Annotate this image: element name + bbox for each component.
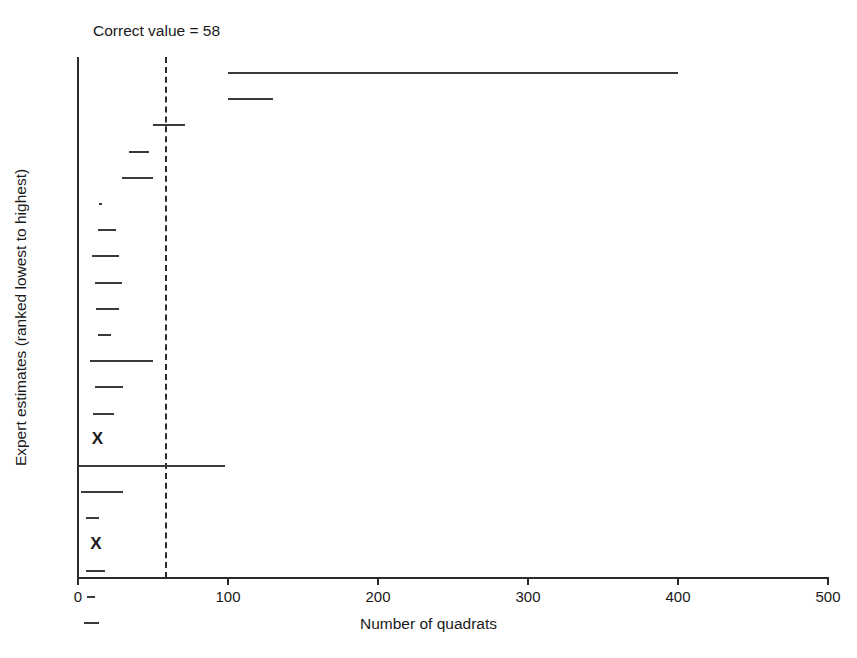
expert-estimates-chart: Correct value = 58 XX 0100200300400500 N… [0, 0, 857, 658]
x-tick-200 [377, 578, 379, 585]
estimate-range-bar [95, 386, 124, 388]
x-axis-line [77, 577, 829, 579]
estimate-range-bar [129, 151, 149, 153]
estimate-range-bar [96, 308, 119, 310]
estimate-range-bar [93, 413, 114, 415]
estimate-range-bar [90, 360, 153, 362]
estimate-point-marker: X [92, 429, 103, 446]
x-tick-100 [227, 578, 229, 585]
x-tick-400 [677, 578, 679, 585]
estimate-range-bar [92, 255, 119, 257]
estimate-range-bar [122, 177, 154, 179]
y-axis-title: Expert estimates (ranked lowest to highe… [10, 57, 32, 578]
y-axis-title-text: Expert estimates (ranked lowest to highe… [12, 169, 30, 466]
estimate-range-bar [95, 282, 122, 284]
x-tick-0 [77, 578, 79, 585]
x-tick-500 [827, 578, 829, 585]
reference-line-label: Correct value = 58 [93, 22, 220, 40]
x-tick-label-100: 100 [215, 588, 240, 606]
y-axis-line [77, 57, 79, 578]
estimate-range-bar [98, 229, 116, 231]
estimate-point-marker: X [90, 534, 101, 551]
estimate-range-bar [98, 334, 112, 336]
estimate-range-bar [78, 465, 225, 467]
estimate-range-bar [81, 491, 123, 493]
estimate-range-bar [86, 517, 100, 519]
x-tick-label-400: 400 [665, 588, 690, 606]
x-tick-label-500: 500 [815, 588, 840, 606]
x-tick-300 [527, 578, 529, 585]
estimate-range-bar [87, 596, 95, 598]
x-tick-label-200: 200 [365, 588, 390, 606]
estimate-range-bar [228, 98, 273, 100]
estimate-range-bar [153, 124, 185, 126]
estimate-range-bar [86, 570, 106, 572]
x-tick-label-300: 300 [515, 588, 540, 606]
estimate-range-bar [228, 72, 678, 74]
estimate-range-bar [99, 203, 102, 205]
reference-line-58 [165, 57, 167, 578]
x-axis-title: Number of quadrats [0, 615, 857, 633]
x-tick-label-0: 0 [74, 588, 82, 606]
